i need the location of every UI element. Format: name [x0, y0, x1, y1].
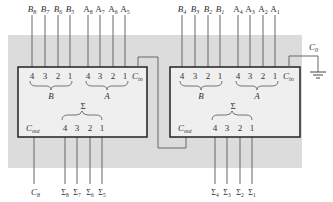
svg-text:B7: B7 — [41, 4, 51, 15]
svg-text:Σ1: Σ1 — [248, 188, 256, 198]
svg-text:1: 1 — [250, 123, 255, 133]
svg-text:B5: B5 — [66, 4, 75, 15]
svg-text:A1: A1 — [270, 4, 280, 15]
svg-text:1: 1 — [68, 71, 73, 81]
right-adder-chip: B4 B3 B2 B1 A4 A3 A2 A1 4321 4321 Cin B … — [170, 4, 300, 198]
svg-text:4: 4 — [236, 71, 241, 81]
adder-diagram: B8 B7 B6 B5 A8 A7 A6 A5 4321 4321 Cin B … — [0, 0, 333, 202]
svg-text:2: 2 — [238, 123, 243, 133]
svg-text:B: B — [48, 91, 54, 101]
svg-text:B: B — [198, 91, 204, 101]
svg-text:A8: A8 — [83, 4, 93, 15]
svg-text:1: 1 — [100, 123, 105, 133]
svg-text:Σ6: Σ6 — [86, 188, 94, 198]
svg-text:B6: B6 — [54, 4, 63, 15]
svg-text:3: 3 — [43, 71, 48, 81]
svg-text:3: 3 — [248, 71, 253, 81]
svg-text:B8: B8 — [28, 4, 37, 15]
svg-text:B2: B2 — [204, 4, 213, 15]
svg-text:3: 3 — [193, 71, 198, 81]
svg-text:Σ5: Σ5 — [98, 188, 106, 198]
svg-text:4: 4 — [63, 123, 68, 133]
svg-text:B3: B3 — [191, 4, 200, 15]
svg-text:2: 2 — [261, 71, 266, 81]
svg-text:Σ4: Σ4 — [211, 188, 219, 198]
svg-text:A4: A4 — [233, 4, 243, 15]
svg-text:3: 3 — [75, 123, 80, 133]
svg-text:A7: A7 — [95, 4, 105, 15]
svg-text:A2: A2 — [258, 4, 268, 15]
svg-text:1: 1 — [123, 71, 128, 81]
svg-text:A6: A6 — [108, 4, 118, 15]
svg-text:Σ8: Σ8 — [61, 188, 69, 198]
svg-text:1: 1 — [218, 71, 223, 81]
svg-text:2: 2 — [56, 71, 61, 81]
svg-text:1: 1 — [273, 71, 278, 81]
svg-text:A5: A5 — [120, 4, 130, 15]
left-adder-chip: B8 B7 B6 B5 A8 A7 A6 A5 4321 4321 Cin B … — [18, 4, 147, 198]
svg-text:A: A — [253, 91, 260, 101]
svg-text:Σ7: Σ7 — [73, 188, 81, 198]
svg-text:Σ2: Σ2 — [236, 188, 244, 198]
svg-text:Σ: Σ — [230, 101, 235, 111]
svg-text:B4: B4 — [178, 4, 187, 15]
svg-text:Σ3: Σ3 — [223, 188, 231, 198]
c0-label: C0 — [309, 42, 318, 53]
svg-text:3: 3 — [225, 123, 230, 133]
svg-text:A3: A3 — [245, 4, 255, 15]
svg-text:Σ: Σ — [80, 101, 85, 111]
svg-text:B1: B1 — [216, 4, 225, 15]
svg-text:2: 2 — [206, 71, 211, 81]
input-b8: B8 — [28, 4, 37, 15]
svg-text:2: 2 — [88, 123, 93, 133]
svg-text:C8: C8 — [31, 187, 40, 198]
svg-text:4: 4 — [213, 123, 218, 133]
svg-text:3: 3 — [98, 71, 103, 81]
svg-text:A: A — [103, 91, 110, 101]
svg-text:2: 2 — [111, 71, 116, 81]
svg-text:4: 4 — [86, 71, 91, 81]
svg-text:4: 4 — [180, 71, 185, 81]
svg-text:4: 4 — [30, 71, 35, 81]
